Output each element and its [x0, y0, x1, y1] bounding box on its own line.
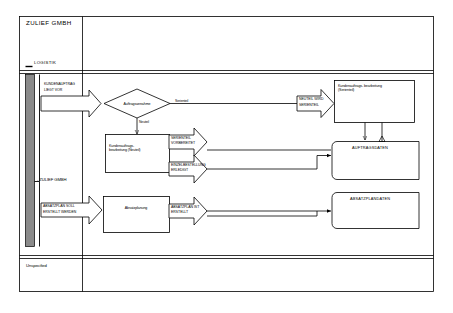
- event-absatzplan-ist-label-line1: ABSATZPLAN IST: [171, 206, 199, 210]
- event-absatzplan-soll-label-line2: ERSTELLT WERDEN: [43, 211, 76, 215]
- lane-label-zulief-gmbh: - ZULIEF GMBH: [37, 178, 66, 183]
- datastore-auftragsdaten-label: AUFTRAGSDATEN: [352, 146, 388, 150]
- function-kundenauftrag-neuteil-label: Kundenauftrags- bearbeitung (Neuteil): [109, 144, 167, 152]
- diagram-canvas: ZULIEF GMBH LOGISTIK - ZULIEF GMBH Unspe…: [0, 0, 453, 313]
- event-serienteil-vorbereitet-label-line1: SERIENTEIL: [171, 137, 191, 141]
- lane-label-unspecified: Unspecified: [26, 264, 47, 269]
- function-absatzplanung-label: Absatzplanung: [104, 206, 168, 210]
- diagram-vector-layer: [0, 0, 453, 313]
- edge-label-neuteil: Neuteil: [139, 121, 149, 125]
- event-neuteil-serienteil-label-line1: NEUTEIL WIRD: [299, 98, 323, 102]
- edge-serienteil-function-to-store: [365, 123, 385, 142]
- event-kundenauftrag-label-line1: KUNDENAUFTRAG: [44, 83, 75, 87]
- event-serienteil-vorbereitet-label-line2: VORBEREITET: [171, 142, 195, 146]
- function-kundenauftrag-neuteil-shape[interactable]: [106, 135, 170, 173]
- event-einzelbestellung-erledigt-label-line2: ERLEDIGT: [171, 169, 188, 173]
- event-kundenauftrag-shape[interactable]: [41, 90, 101, 117]
- event-kundenauftrag-label-line2: LIEGT VOR: [44, 89, 62, 93]
- datastore-absatzplandaten-label: ABSATZPLANDATEN: [350, 197, 390, 201]
- edge-events-to-auftragsdaten: [207, 150, 331, 169]
- event-neuteil-serienteil-label-line2: SERIENTEIL: [299, 104, 319, 108]
- edge-label-serienteil: Serienteil: [175, 100, 188, 104]
- function-kundenauftrag-serienteil-label: Kundenauftrags- bearbeitung (Serienteil): [338, 84, 412, 92]
- event-einzelbestellung-erledigt-label-line1: EINZELBESTELLUNG: [171, 164, 206, 168]
- lane-bracket-zulief: [26, 67, 40, 247]
- lane-sublabel-logistik: LOGISTIK: [34, 61, 56, 66]
- decision-auftragsannahme-label: Auftragsannahme: [113, 102, 161, 106]
- function-absatzplanung-shape[interactable]: [104, 197, 170, 233]
- edge-absatzplan-to-store: [207, 211, 331, 216]
- lane-title-zulief-gmbh: ZULIEF GMBH: [26, 20, 71, 27]
- event-absatzplan-ist-label-line2: ERSTELLT: [171, 211, 188, 215]
- event-absatzplan-soll-label-line1: ABSATZPLAN SOLL: [43, 205, 75, 209]
